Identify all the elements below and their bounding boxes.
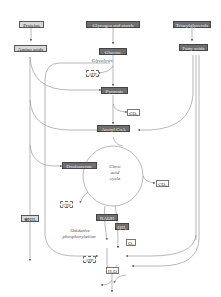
oxaloacetate-box: Oxaloacetate (62, 162, 97, 169)
glycolysis-label: Glycolysis (84, 58, 120, 64)
amino-acids-box: Amino acids (14, 45, 47, 52)
ammonium-box: ⊕NH₄ (21, 215, 39, 222)
atp-oxphos-badge: ATP (83, 256, 96, 263)
fatty-acids-box: Fatty acids (179, 44, 208, 51)
co2-cycle-box: CO₂ (156, 180, 169, 187)
atp-glycolysis-badge: ATP (86, 70, 99, 77)
qh2-box: QH₂ (115, 223, 129, 230)
water-box: H₂O (106, 267, 119, 274)
triacylglycerols-box: Triacylglycerols (173, 21, 211, 28)
proteins-box: Proteins (19, 21, 44, 28)
gtp-badge: GTP (60, 201, 73, 208)
glycogen-starch-box: Glycogen and starch (86, 21, 140, 28)
glucose-box: Glucose (99, 48, 127, 55)
co2-pyruvate-box: CO₂ (127, 109, 140, 116)
citric-acid-cycle-label-3: cycle (103, 176, 127, 182)
acetyl-coa-box: Acetyl CoA (97, 125, 130, 132)
oxidative-phosphorylation-label-2: phosphorylation (56, 234, 102, 240)
nadh-box: NADH (96, 214, 118, 221)
pyruvate-box: Pyruvate (101, 87, 128, 94)
metabolism-diagram: Proteins Glycogen and starch Triacylglyc… (0, 0, 221, 297)
o2-box: O₂ (126, 239, 136, 246)
